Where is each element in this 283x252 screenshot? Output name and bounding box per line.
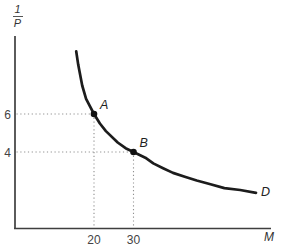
y-axis-label-numerator: 1	[9, 3, 26, 16]
point-label-B: B	[140, 136, 148, 150]
x-axis-label: M	[264, 230, 274, 244]
curve-label: D	[261, 185, 270, 199]
y-axis-label-denominator: P	[9, 17, 26, 30]
y-tick-label-6: 6	[4, 108, 11, 122]
demand-curve-figure: A206B304 1 P M D	[0, 0, 283, 252]
y-axis-label: 1 P	[9, 3, 26, 30]
y-tick-label-4: 4	[4, 146, 11, 160]
x-tick-label-30: 30	[127, 233, 141, 247]
x-tick-label-20: 20	[87, 233, 101, 247]
point-dot-B	[130, 149, 137, 156]
demand-curve	[76, 51, 256, 193]
point-dot-A	[91, 111, 98, 118]
chart-svg: A206B304	[0, 0, 283, 252]
point-label-A: A	[99, 98, 108, 112]
